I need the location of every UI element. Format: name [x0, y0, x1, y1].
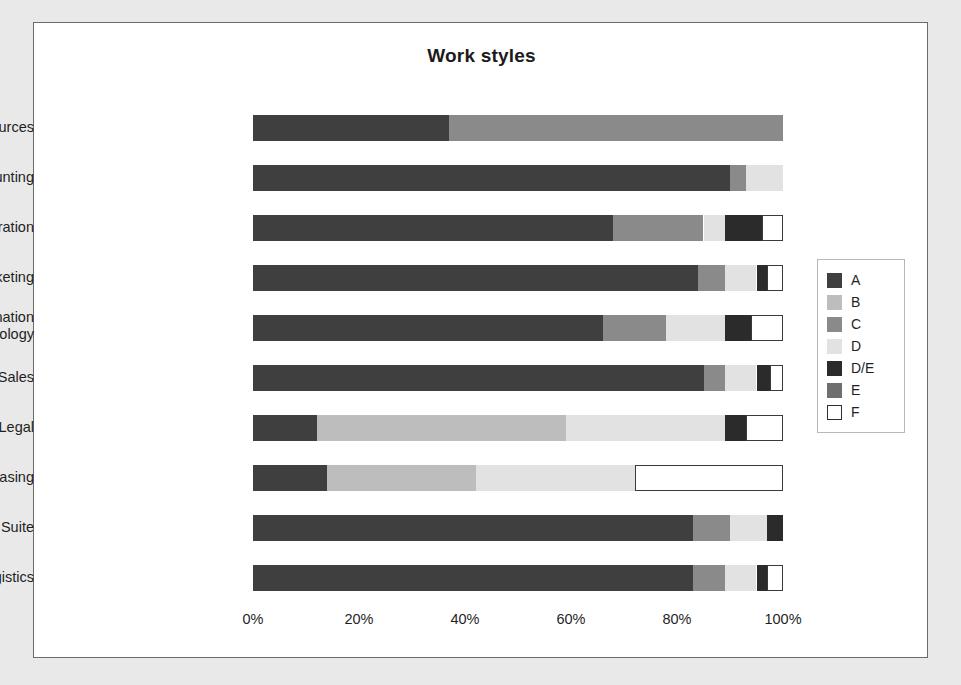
bar-segment-c[interactable]	[693, 515, 730, 541]
stacked-bar[interactable]	[253, 115, 783, 141]
bar-segment-f[interactable]	[767, 265, 783, 291]
bar-row: InformationTechnology	[253, 315, 783, 341]
bar-segment-d[interactable]	[725, 265, 757, 291]
legend-item[interactable]: A	[827, 269, 896, 291]
x-tick-label: 0%	[243, 611, 264, 627]
bar-segment-d[interactable]	[746, 165, 783, 191]
category-label: Administration	[0, 219, 34, 236]
bar-segment-a[interactable]	[253, 215, 613, 241]
bar-segment-a[interactable]	[253, 465, 327, 491]
bar-segment-f[interactable]	[767, 565, 783, 591]
x-tick-label: 60%	[556, 611, 585, 627]
legend-item[interactable]: C	[827, 313, 896, 335]
legend-swatch-icon	[827, 383, 842, 398]
bar-segment-d-e[interactable]	[757, 265, 768, 291]
chart-legend: ABCDD/EEF	[817, 259, 905, 433]
bar-segment-d[interactable]	[566, 415, 725, 441]
bar-segment-a[interactable]	[253, 565, 693, 591]
bar-segment-c[interactable]	[730, 165, 746, 191]
bar-segment-f[interactable]	[751, 315, 783, 341]
stacked-bar[interactable]	[253, 565, 783, 591]
bar-segment-f[interactable]	[635, 465, 783, 491]
stacked-bar[interactable]	[253, 315, 783, 341]
legend-item[interactable]: D	[827, 335, 896, 357]
bar-segment-d[interactable]	[725, 565, 757, 591]
bar-segment-f[interactable]	[746, 415, 783, 441]
category-label: Sales	[0, 369, 34, 386]
bar-segment-a[interactable]	[253, 365, 704, 391]
bar-segment-a[interactable]	[253, 315, 603, 341]
bar-row: Accounting	[253, 165, 783, 191]
bar-segment-d-e[interactable]	[725, 215, 762, 241]
legend-swatch-icon	[827, 273, 842, 288]
legend-swatch-icon	[827, 361, 842, 376]
bar-segment-f[interactable]	[762, 215, 783, 241]
legend-label: A	[851, 273, 860, 288]
bar-segment-d[interactable]	[725, 365, 757, 391]
bar-row: Administration	[253, 215, 783, 241]
stacked-bar[interactable]	[253, 215, 783, 241]
x-tick-label: 80%	[662, 611, 691, 627]
legend-label: D/E	[851, 361, 874, 376]
stacked-bar[interactable]	[253, 165, 783, 191]
legend-label: E	[851, 383, 860, 398]
x-tick-label: 20%	[344, 611, 373, 627]
bar-row: Corporate Suite	[253, 515, 783, 541]
bar-segment-c[interactable]	[704, 365, 725, 391]
bar-segment-c[interactable]	[698, 265, 725, 291]
stacked-bar[interactable]	[253, 415, 783, 441]
stacked-bar[interactable]	[253, 265, 783, 291]
category-label: Legal	[0, 419, 34, 436]
category-label: InformationTechnology	[0, 309, 34, 343]
bar-row: Purchasing	[253, 465, 783, 491]
bar-segment-d[interactable]	[730, 515, 767, 541]
category-label: Purchasing	[0, 469, 34, 486]
stacked-bar[interactable]	[253, 515, 783, 541]
bar-segment-f[interactable]	[770, 365, 783, 391]
bar-segment-a[interactable]	[253, 265, 698, 291]
bar-segment-a[interactable]	[253, 165, 730, 191]
bar-row: Logistics	[253, 565, 783, 591]
bar-row: Marketing	[253, 265, 783, 291]
legend-label: B	[851, 295, 860, 310]
bar-segment-b[interactable]	[317, 415, 566, 441]
stacked-bar[interactable]	[253, 465, 783, 491]
category-label: Accounting	[0, 169, 34, 186]
legend-item[interactable]: B	[827, 291, 896, 313]
category-label: Corporate Suite	[0, 519, 34, 536]
bar-segment-d-e[interactable]	[757, 365, 770, 391]
category-label: Human Resources	[0, 119, 34, 136]
bar-segment-c[interactable]	[613, 215, 703, 241]
bar-segment-d[interactable]	[476, 465, 635, 491]
chart-panel: Work styles Human ResourcesAccountingAdm…	[33, 22, 928, 658]
bar-segment-d-e[interactable]	[725, 315, 752, 341]
bar-segment-d-e[interactable]	[757, 565, 768, 591]
stacked-bar[interactable]	[253, 365, 783, 391]
bar-segment-d[interactable]	[666, 315, 724, 341]
x-tick-label: 100%	[764, 611, 801, 627]
bar-segment-c[interactable]	[693, 565, 725, 591]
legend-label: C	[851, 317, 861, 332]
bar-segment-d[interactable]	[704, 215, 725, 241]
bar-segment-d-e[interactable]	[725, 415, 746, 441]
bar-row: Legal	[253, 415, 783, 441]
legend-swatch-icon	[827, 317, 842, 332]
legend-item[interactable]: E	[827, 379, 896, 401]
bar-row: Human Resources	[253, 115, 783, 141]
bar-segment-a[interactable]	[253, 415, 317, 441]
bar-segment-c[interactable]	[449, 115, 783, 141]
legend-swatch-icon	[827, 295, 842, 310]
plot-area: Human ResourcesAccountingAdministrationM…	[253, 109, 783, 597]
bar-segment-c[interactable]	[603, 315, 667, 341]
category-label: Marketing	[0, 269, 34, 286]
legend-label: F	[851, 405, 860, 420]
legend-item[interactable]: D/E	[827, 357, 896, 379]
bar-segment-a[interactable]	[253, 115, 449, 141]
legend-item[interactable]: F	[827, 401, 896, 423]
bar-segment-a[interactable]	[253, 515, 693, 541]
bar-row: Sales	[253, 365, 783, 391]
category-label: Logistics	[0, 569, 34, 586]
bar-segment-b[interactable]	[327, 465, 475, 491]
x-tick-label: 40%	[450, 611, 479, 627]
bar-segment-d-e[interactable]	[767, 515, 783, 541]
